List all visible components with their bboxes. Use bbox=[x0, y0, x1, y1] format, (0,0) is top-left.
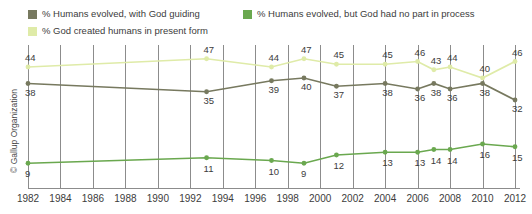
data-point-marker bbox=[415, 87, 420, 92]
data-point-label: 9 bbox=[301, 169, 306, 179]
data-point-marker bbox=[431, 67, 436, 72]
data-point-marker bbox=[26, 81, 31, 86]
data-point-marker bbox=[334, 84, 339, 89]
data-point-marker bbox=[26, 65, 31, 70]
x-tick-label: 1992 bbox=[174, 193, 206, 205]
data-point-label: 32 bbox=[512, 104, 523, 114]
data-point-label: 11 bbox=[204, 164, 214, 174]
data-point-label: 44 bbox=[269, 53, 280, 63]
data-point-label: 36 bbox=[447, 93, 458, 103]
data-point-label: 38 bbox=[480, 88, 491, 98]
data-point-marker bbox=[269, 65, 274, 70]
x-tick-label: 2012 bbox=[499, 193, 531, 205]
data-point-marker bbox=[480, 142, 485, 147]
data-point-marker bbox=[415, 59, 420, 64]
data-point-label: 38 bbox=[382, 88, 393, 98]
data-point-label: 45 bbox=[333, 50, 344, 60]
data-point-label: 15 bbox=[512, 153, 523, 163]
data-point-marker bbox=[204, 89, 209, 94]
data-point-label: 47 bbox=[204, 45, 215, 55]
plot-area bbox=[0, 45, 532, 189]
data-point-label: 38 bbox=[25, 88, 36, 98]
data-point-marker bbox=[480, 76, 485, 81]
data-point-marker bbox=[302, 161, 307, 166]
x-tick-label: 1984 bbox=[44, 193, 76, 205]
data-point-marker bbox=[513, 98, 518, 103]
data-point-label: 40 bbox=[480, 64, 491, 74]
x-tick-label: 2008 bbox=[434, 193, 466, 205]
x-tick-label: 1988 bbox=[109, 193, 141, 205]
data-point-marker bbox=[513, 59, 518, 64]
data-point-marker bbox=[26, 161, 31, 166]
data-point-label: 40 bbox=[301, 82, 312, 92]
x-tick-label: 1996 bbox=[239, 193, 271, 205]
data-point-marker bbox=[334, 62, 339, 67]
data-point-marker bbox=[448, 147, 453, 152]
data-point-label: 14 bbox=[447, 156, 458, 166]
line-chart: 4447444745454643444046383539403738363836… bbox=[0, 0, 532, 214]
data-point-label: 37 bbox=[333, 90, 344, 100]
data-point-marker bbox=[269, 158, 274, 163]
x-tick-label: 1986 bbox=[77, 193, 109, 205]
x-tick-label: 2004 bbox=[369, 193, 401, 205]
x-tick-label: 2002 bbox=[337, 193, 369, 205]
series-lines bbox=[0, 45, 532, 189]
x-tick-label: 2010 bbox=[467, 193, 499, 205]
data-point-label: 44 bbox=[447, 53, 458, 63]
data-point-label: 9 bbox=[25, 169, 30, 179]
data-point-label: 39 bbox=[269, 85, 280, 95]
data-point-label: 44 bbox=[25, 53, 36, 63]
data-point-marker bbox=[415, 150, 420, 155]
data-point-label: 47 bbox=[301, 45, 312, 55]
data-point-label: 12 bbox=[333, 161, 344, 171]
data-point-label: 46 bbox=[512, 48, 523, 58]
data-point-label: 46 bbox=[415, 48, 426, 58]
x-tick-label: 1994 bbox=[207, 193, 239, 205]
data-point-marker bbox=[204, 56, 209, 61]
data-point-label: 14 bbox=[431, 156, 442, 166]
data-point-marker bbox=[431, 147, 436, 152]
data-point-marker bbox=[302, 76, 307, 81]
data-point-label: 10 bbox=[269, 167, 280, 177]
x-tick-label: 1982 bbox=[12, 193, 44, 205]
data-point-marker bbox=[448, 87, 453, 92]
data-point-label: 35 bbox=[204, 96, 215, 106]
data-point-label: 16 bbox=[480, 150, 491, 160]
data-point-marker bbox=[431, 81, 436, 86]
x-tick-label: 2000 bbox=[304, 193, 336, 205]
data-point-marker bbox=[204, 155, 209, 160]
data-point-marker bbox=[383, 81, 388, 86]
data-point-marker bbox=[448, 65, 453, 70]
chart-credit: © Gallup Organization bbox=[9, 83, 19, 179]
data-point-marker bbox=[480, 81, 485, 86]
x-tick-label: 1998 bbox=[272, 193, 304, 205]
data-point-marker bbox=[383, 150, 388, 155]
data-point-label: 43 bbox=[431, 56, 442, 66]
x-axis-ticks: 1982198419861988199019921994199619982000… bbox=[0, 193, 532, 211]
data-point-label: 36 bbox=[415, 93, 426, 103]
x-axis-line bbox=[28, 188, 520, 189]
data-point-label: 45 bbox=[382, 50, 393, 60]
data-point-label: 13 bbox=[382, 158, 393, 168]
data-point-label: 38 bbox=[431, 88, 442, 98]
x-tick-label: 1990 bbox=[142, 193, 174, 205]
data-point-marker bbox=[383, 62, 388, 67]
data-point-marker bbox=[302, 56, 307, 61]
data-point-marker bbox=[513, 144, 518, 149]
data-point-label: 13 bbox=[415, 158, 426, 168]
data-point-marker bbox=[334, 153, 339, 158]
x-tick-label: 2006 bbox=[402, 193, 434, 205]
data-point-marker bbox=[269, 78, 274, 83]
